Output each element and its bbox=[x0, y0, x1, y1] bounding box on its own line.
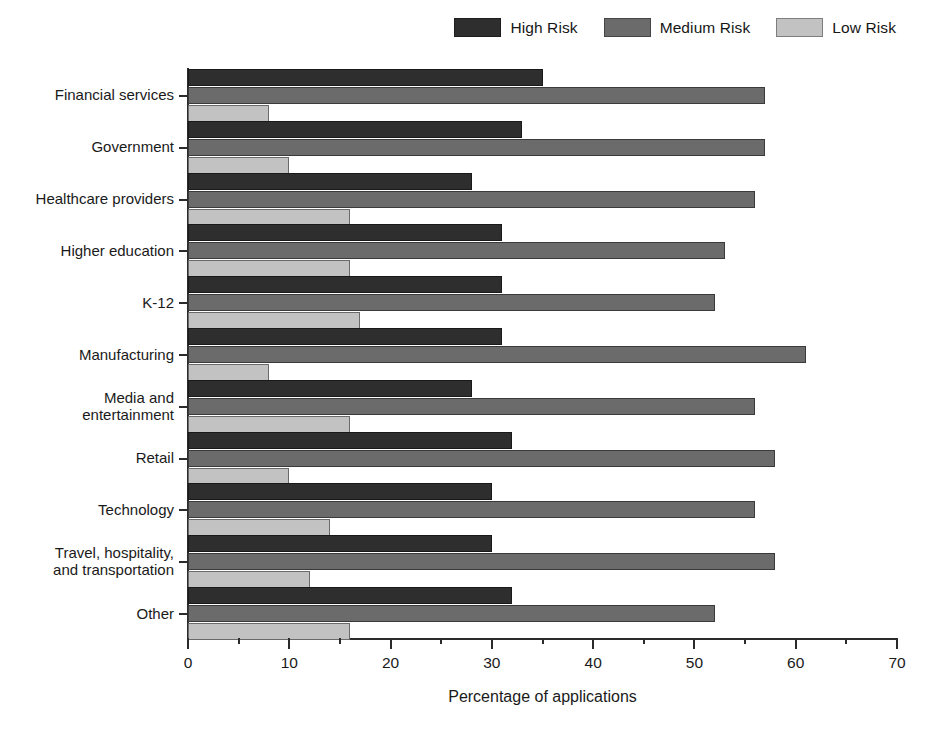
bar-low-risk bbox=[188, 105, 269, 122]
category-label: Retail bbox=[136, 449, 174, 466]
x-tick-minor bbox=[440, 638, 442, 644]
bar-medium-risk bbox=[188, 242, 725, 259]
bar-high-risk bbox=[188, 69, 543, 86]
x-tick-major bbox=[491, 638, 493, 649]
bar-low-risk bbox=[188, 364, 269, 381]
bar-group: Technology bbox=[188, 483, 897, 537]
category-label: Healthcare providers bbox=[36, 190, 174, 207]
bar-high-risk bbox=[188, 276, 502, 293]
category-label: Travel, hospitality, and transportation bbox=[53, 544, 174, 578]
legend-label: Medium Risk bbox=[660, 19, 751, 37]
bar-group: Other bbox=[188, 587, 897, 641]
x-tick-label: 70 bbox=[888, 654, 905, 672]
x-tick-major bbox=[693, 638, 695, 649]
bar-high-risk bbox=[188, 380, 472, 397]
y-axis-tick bbox=[179, 250, 188, 252]
bar-high-risk bbox=[188, 173, 472, 190]
y-axis-tick bbox=[179, 302, 188, 304]
category-label: Higher education bbox=[61, 242, 174, 259]
y-axis-tick bbox=[179, 406, 188, 408]
bar-medium-risk bbox=[188, 294, 715, 311]
y-axis-tick bbox=[179, 95, 188, 97]
bar-group: Healthcare providers bbox=[188, 173, 897, 227]
legend-swatch-icon bbox=[604, 18, 651, 37]
bar-group: K-12 bbox=[188, 276, 897, 330]
legend-entry: High Risk bbox=[454, 18, 577, 37]
y-axis-tick bbox=[179, 613, 188, 615]
bar-group: Financial services bbox=[188, 69, 897, 123]
bar-medium-risk bbox=[188, 553, 775, 570]
bar-high-risk bbox=[188, 121, 522, 138]
x-tick-minor bbox=[744, 638, 746, 644]
bar-medium-risk bbox=[188, 87, 765, 104]
bar-low-risk bbox=[188, 571, 310, 588]
legend-entry: Medium Risk bbox=[604, 18, 751, 37]
bar-group: Higher education bbox=[188, 224, 897, 278]
x-tick-major bbox=[390, 638, 392, 649]
bar-low-risk bbox=[188, 623, 350, 640]
bar-group: Retail bbox=[188, 432, 897, 486]
y-axis-tick bbox=[179, 199, 188, 201]
category-label: Other bbox=[136, 605, 174, 622]
chart-legend: High RiskMedium RiskLow Risk bbox=[0, 18, 930, 37]
x-tick-label: 0 bbox=[184, 654, 193, 672]
bar-high-risk bbox=[188, 328, 502, 345]
x-tick-major bbox=[187, 638, 189, 649]
legend-swatch-icon bbox=[454, 18, 501, 37]
x-tick-minor bbox=[845, 638, 847, 644]
legend-label: Low Risk bbox=[832, 19, 896, 37]
y-axis-tick bbox=[179, 458, 188, 460]
category-label: Technology bbox=[98, 501, 174, 518]
bar-low-risk bbox=[188, 209, 350, 226]
x-tick-label: 10 bbox=[281, 654, 298, 672]
x-tick-label: 40 bbox=[585, 654, 602, 672]
bar-low-risk bbox=[188, 157, 289, 174]
bar-group: Media and entertainment bbox=[188, 380, 897, 434]
bar-low-risk bbox=[188, 468, 289, 485]
x-tick-major bbox=[896, 638, 898, 649]
bar-medium-risk bbox=[188, 501, 755, 518]
x-tick-label: 30 bbox=[483, 654, 500, 672]
y-axis-tick bbox=[179, 354, 188, 356]
bar-low-risk bbox=[188, 416, 350, 433]
bar-group: Travel, hospitality, and transportation bbox=[188, 535, 897, 589]
bar-medium-risk bbox=[188, 605, 715, 622]
bar-high-risk bbox=[188, 224, 502, 241]
y-axis-tick bbox=[179, 509, 188, 511]
bar-high-risk bbox=[188, 483, 492, 500]
category-label: Financial services bbox=[55, 86, 174, 103]
legend-swatch-icon bbox=[776, 18, 823, 37]
y-axis-tick bbox=[179, 147, 188, 149]
x-tick-minor bbox=[238, 638, 240, 644]
x-tick-minor bbox=[542, 638, 544, 644]
bar-chart: High RiskMedium RiskLow Risk Financial s… bbox=[0, 0, 930, 735]
bar-medium-risk bbox=[188, 139, 765, 156]
plot-area: Financial servicesGovernmentHealthcare p… bbox=[188, 68, 897, 638]
legend-entry: Low Risk bbox=[776, 18, 896, 37]
x-axis-title: Percentage of applications bbox=[188, 688, 897, 706]
bar-medium-risk bbox=[188, 450, 775, 467]
bar-high-risk bbox=[188, 535, 492, 552]
x-tick-label: 50 bbox=[686, 654, 703, 672]
category-label: K-12 bbox=[142, 294, 174, 311]
bar-group: Government bbox=[188, 121, 897, 175]
x-tick-major bbox=[592, 638, 594, 649]
bar-group: Manufacturing bbox=[188, 328, 897, 382]
bar-low-risk bbox=[188, 312, 360, 329]
x-tick-label: 60 bbox=[787, 654, 804, 672]
legend-label: High Risk bbox=[510, 19, 577, 37]
x-tick-minor bbox=[643, 638, 645, 644]
category-label: Government bbox=[91, 138, 174, 155]
bar-low-risk bbox=[188, 260, 350, 277]
x-tick-label: 20 bbox=[382, 654, 399, 672]
bar-medium-risk bbox=[188, 346, 806, 363]
bar-low-risk bbox=[188, 519, 330, 536]
x-tick-major bbox=[795, 638, 797, 649]
bar-high-risk bbox=[188, 432, 512, 449]
bar-medium-risk bbox=[188, 398, 755, 415]
category-label: Media and entertainment bbox=[82, 389, 174, 423]
x-tick-major bbox=[288, 638, 290, 649]
bar-medium-risk bbox=[188, 191, 755, 208]
category-label: Manufacturing bbox=[79, 346, 174, 363]
y-axis-tick bbox=[179, 561, 188, 563]
